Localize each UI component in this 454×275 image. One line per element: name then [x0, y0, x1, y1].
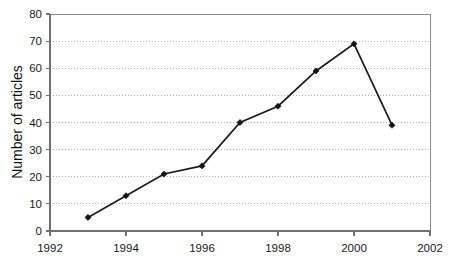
y-tick-label-0: 0 — [36, 225, 42, 237]
line-chart: 01020304050607080 1992199419961998200020… — [0, 0, 454, 275]
y-tick-label-40: 40 — [29, 117, 42, 129]
chart-figure: 01020304050607080 1992199419961998200020… — [0, 0, 454, 275]
y-tick-label-30: 30 — [29, 144, 42, 156]
x-tick-label-1998: 1998 — [265, 242, 291, 254]
x-tick-label-1992: 1992 — [37, 242, 63, 254]
y-tick-label-20: 20 — [29, 171, 42, 183]
x-tick-label-2002: 2002 — [417, 242, 443, 254]
y-axis-title: Number of articles — [9, 65, 25, 179]
y-tick-label-50: 50 — [29, 89, 42, 101]
y-tick-label-60: 60 — [29, 62, 42, 74]
y-tick-label-70: 70 — [29, 35, 42, 47]
y-tick-label-group: 01020304050607080 — [29, 8, 42, 237]
x-tick-label-1996: 1996 — [189, 242, 215, 254]
x-tick-label-1994: 1994 — [113, 242, 139, 254]
y-tick-label-10: 10 — [29, 198, 42, 210]
y-tick-label-80: 80 — [29, 8, 42, 20]
x-tick-label-2000: 2000 — [341, 242, 367, 254]
